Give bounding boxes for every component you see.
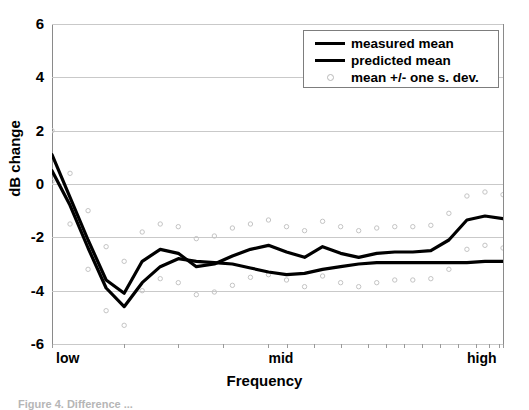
x-tick-mark [503, 344, 504, 348]
sdev-lower-markers [52, 179, 503, 327]
x-tick-mark [489, 344, 490, 348]
legend-circle-icon [313, 74, 347, 81]
figure-caption: Figure 4. Difference ... [18, 398, 133, 410]
y-tick-label: 6 [0, 16, 44, 31]
y-tick-label: -4 [0, 283, 44, 298]
y-tick-label: -6 [0, 336, 44, 351]
x-tick-mark [368, 344, 369, 348]
legend: measured mean predicted mean mean +/- on… [303, 30, 499, 88]
legend-label-measured-mean: measured mean [347, 36, 454, 51]
legend-item-sdev: mean +/- one s. dev. [304, 69, 498, 86]
y-tick-label: -2 [0, 229, 44, 244]
x-tick-mark [476, 344, 477, 348]
x-tick-mark [404, 344, 405, 348]
plot-right-border [503, 24, 504, 345]
legend-label-sdev: mean +/- one s. dev. [347, 70, 479, 85]
y-tick-label: 4 [0, 69, 44, 84]
x-end-label-high: high [467, 350, 497, 366]
line-predicted-mean [52, 171, 503, 307]
x-tick-mark [178, 344, 179, 348]
x-end-label-mid: mid [269, 350, 294, 366]
x-tick-mark [386, 344, 387, 348]
x-tick-mark [341, 344, 342, 348]
x-tick-mark [499, 344, 500, 348]
legend-line-icon [313, 42, 347, 45]
x-tick-mark [52, 344, 53, 348]
legend-label-predicted-mean: predicted mean [347, 53, 451, 68]
x-tick-mark [268, 344, 269, 348]
x-tick-mark [314, 344, 315, 348]
figure-container: 6420-2-4-6 dB change Frequency low mid h… [0, 0, 529, 410]
legend-item-predicted-mean: predicted mean [304, 52, 498, 69]
legend-item-measured-mean: measured mean [304, 35, 498, 52]
x-tick-mark [458, 344, 459, 348]
x-tick-mark [422, 344, 423, 348]
x-axis-title: Frequency [0, 372, 529, 389]
y-axis-title: dB change [6, 99, 23, 219]
x-tick-mark [287, 344, 288, 348]
x-tick-mark [440, 344, 441, 348]
legend-line-icon [313, 59, 347, 62]
x-tick-mark [223, 344, 224, 348]
sdev-upper-markers [52, 128, 503, 263]
x-tick-mark [124, 344, 125, 348]
x-end-label-low: low [56, 350, 79, 366]
gridline [52, 344, 503, 345]
